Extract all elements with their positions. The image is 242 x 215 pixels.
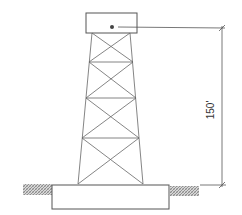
ground-hatch-right <box>170 186 199 196</box>
centerline-marker-icon <box>110 25 114 29</box>
dimension-label: 150' <box>205 101 216 120</box>
tower-lattice <box>78 33 143 184</box>
tower-diagram: 150' <box>0 0 242 215</box>
ground-hatch-left <box>23 184 52 195</box>
foundation <box>52 185 169 209</box>
tower-top-cab <box>86 13 137 33</box>
